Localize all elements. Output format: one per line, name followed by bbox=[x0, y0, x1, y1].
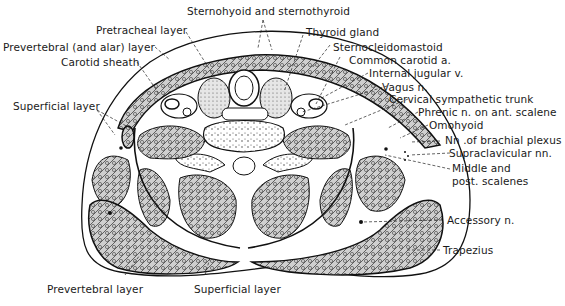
label-vagus: Vagus n. bbox=[382, 82, 428, 93]
label-middle-scalenes-1: Middle and bbox=[452, 163, 511, 174]
spinal-cord bbox=[233, 157, 255, 175]
label-superficial-left: Superficial layer bbox=[13, 101, 100, 112]
label-carotid-sheath: Carotid sheath bbox=[61, 57, 140, 68]
label-common-carotid: Common carotid a. bbox=[349, 55, 451, 66]
omohyoid-left bbox=[122, 126, 134, 148]
label-prevertebral-bottom: Prevertebral layer bbox=[47, 284, 143, 295]
label-trapezius: Trapezius bbox=[443, 245, 493, 256]
label-sternohyoid: Sternohyoid and sternothyroid bbox=[187, 6, 350, 17]
esophagus bbox=[222, 108, 268, 120]
neck-cross-section-diagram: Sternohyoid and sternothyroid Pretrachea… bbox=[0, 0, 565, 306]
label-omohyoid: Omohyoid bbox=[429, 120, 484, 131]
label-internal-jugular: Internal jugular v. bbox=[369, 68, 463, 79]
label-supraclavicular: Supraclavicular nn. bbox=[449, 148, 552, 159]
label-phrenic: Phrenic n. on ant. scalene bbox=[418, 107, 557, 118]
label-pretracheal: Pretracheal layer bbox=[96, 25, 187, 36]
label-cervical-sympathetic: Cervical sympathetic trunk bbox=[389, 94, 534, 105]
label-sternocleidomastoid: Sternocleidomastoid bbox=[333, 42, 443, 53]
label-middle-scalenes-2: post. scalenes bbox=[452, 176, 528, 187]
label-brachial-plexus: Nn .of brachial plexus bbox=[445, 135, 562, 146]
label-thyroid-gland: Thyroid gland bbox=[306, 27, 379, 38]
label-prevertebral-alar: Prevertebral (and alar) layer bbox=[3, 42, 155, 53]
label-superficial-bottom: Superficial layer bbox=[194, 284, 281, 295]
label-accessory: Accessory n. bbox=[447, 215, 514, 226]
vertebral-body bbox=[203, 121, 284, 153]
